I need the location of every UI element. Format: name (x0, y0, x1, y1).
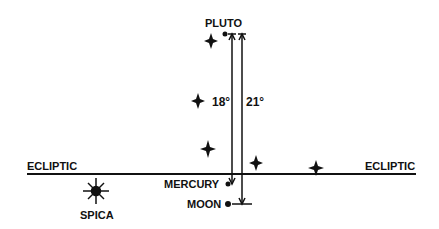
star-icon (191, 93, 205, 109)
sky-diagram: ECLIPTIC ECLIPTIC PLUTO 18° 21° MERCURY … (0, 0, 439, 229)
star-icon (200, 140, 216, 158)
angle-label-21: 21° (246, 95, 264, 109)
ecliptic-label-left: ECLIPTIC (27, 160, 77, 172)
spica-star-icon (83, 178, 109, 204)
ecliptic-label-right: ECLIPTIC (365, 160, 415, 172)
spica-label: SPICA (80, 209, 114, 221)
angle-label-18: 18° (212, 95, 230, 109)
mercury-label: MERCURY (164, 178, 220, 190)
star-icon (204, 33, 218, 49)
moon-label: MOON (187, 198, 221, 210)
pluto-dot (223, 32, 228, 37)
moon-dot (225, 201, 231, 207)
mercury-dot (226, 182, 231, 187)
pluto-label: PLUTO (205, 17, 243, 29)
star-icon (249, 155, 263, 171)
separation-arrow-mercury (228, 34, 236, 184)
